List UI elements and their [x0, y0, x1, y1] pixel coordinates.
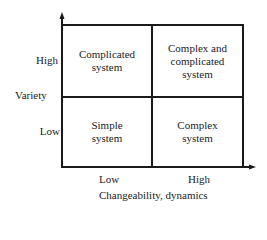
y-tick-low: Low: [40, 125, 60, 138]
matrix-right-border: [242, 25, 244, 167]
y-axis-title: Variety: [15, 89, 47, 102]
quadrant-bottom-left: Simple system: [63, 98, 151, 166]
quadrant-top-left: Complicated system: [63, 26, 151, 96]
y-tick-high: High: [36, 54, 58, 67]
x-axis-line: [61, 166, 251, 168]
x-axis-title: Changeability, dynamics: [99, 189, 208, 202]
quadrant-top-right: Complex and complicated system: [153, 26, 242, 96]
x-tick-low: Low: [99, 173, 119, 186]
quadrant-bottom-right: Complex system: [153, 98, 242, 166]
x-tick-high: High: [188, 173, 210, 186]
